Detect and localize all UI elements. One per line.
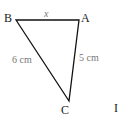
vertex-label-c: C: [61, 103, 69, 117]
extra-label: I: [114, 101, 118, 115]
triangle-diagram: B A C x 6 cm 5 cm I: [0, 0, 120, 119]
vertex-label-b: B: [4, 11, 12, 25]
side-label-ac: 5 cm: [79, 52, 99, 63]
side-label-ba: x: [43, 8, 49, 19]
side-label-bc: 6 cm: [12, 54, 32, 65]
vertex-label-a: A: [81, 11, 90, 25]
